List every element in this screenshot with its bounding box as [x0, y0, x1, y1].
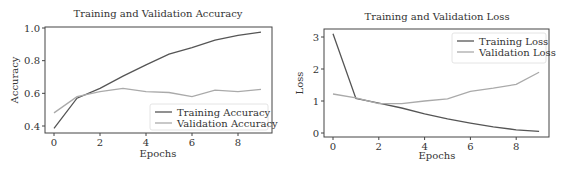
legend-label: Validation Loss — [478, 47, 556, 58]
x-tick-label: 6 — [467, 141, 473, 152]
y-tick-label: 2 — [313, 64, 319, 75]
legend-label: Training Loss — [479, 36, 548, 47]
y-axis-label: Loss — [294, 72, 305, 95]
x-tick-label: 0 — [51, 137, 57, 148]
y-tick-label: 0.6 — [24, 88, 40, 99]
chart-title: Training and Validation Loss — [364, 11, 509, 22]
legend-label: Validation Accuracy — [176, 118, 278, 129]
x-tick-label: 2 — [376, 141, 382, 152]
x-tick-label: 6 — [189, 137, 195, 148]
y-tick-label: 0 — [313, 128, 319, 139]
chart-title: Training and Validation Accuracy — [74, 8, 243, 19]
chart-loss: Training and Validation LossEpochsLoss02… — [294, 11, 556, 161]
x-tick-label: 4 — [421, 141, 427, 152]
y-tick-label: 1 — [313, 96, 319, 107]
legend-label: Training Accuracy — [177, 107, 270, 118]
y-tick-label: 1.0 — [24, 23, 40, 34]
y-tick-label: 0.8 — [24, 55, 40, 66]
chart-accuracy: Training and Validation AccuracyEpochsAc… — [9, 8, 278, 159]
y-tick-label: 0.4 — [24, 121, 40, 132]
y-axis-label: Accuracy — [9, 56, 20, 104]
x-tick-label: 8 — [513, 141, 519, 152]
x-axis-label: Epochs — [140, 148, 177, 159]
y-tick-label: 3 — [313, 32, 319, 43]
charts-canvas: Training and Validation AccuracyEpochsAc… — [0, 0, 564, 177]
x-tick-label: 4 — [143, 137, 149, 148]
x-tick-label: 2 — [97, 137, 103, 148]
x-tick-label: 8 — [235, 137, 241, 148]
x-tick-label: 0 — [330, 141, 336, 152]
